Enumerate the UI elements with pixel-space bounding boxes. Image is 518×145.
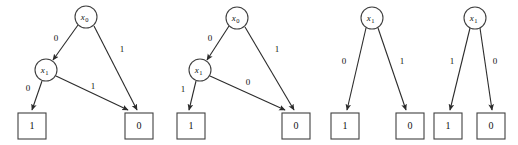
edge-label: 1 — [400, 56, 405, 66]
bdd-node-subscript: 1 — [371, 17, 374, 24]
bdd-node-subscript: 1 — [199, 69, 202, 76]
edge-label: 1 — [120, 44, 125, 54]
bdd-terminal-value: 0 — [137, 120, 142, 131]
bdd-figure: 010110x0x1011010x0x10110x11010x1 — [0, 0, 518, 145]
bdd-terminal-value: 1 — [189, 120, 194, 131]
bdd-edge — [378, 28, 406, 110]
bdd-edge — [189, 81, 196, 110]
bdd-edge — [32, 81, 42, 110]
bdd-edge — [245, 27, 294, 110]
edge-label: 1 — [275, 44, 280, 54]
edge-label: 1 — [450, 56, 455, 66]
bdd-diagram: 1010x1 — [434, 7, 505, 139]
bdd-diagram: 011010x0x1 — [177, 7, 310, 139]
bdd-edge — [480, 28, 492, 110]
edge-label: 0 — [493, 56, 498, 66]
bdd-terminal-value: 1 — [30, 120, 35, 131]
bdd-diagram: 0110x1 — [331, 7, 424, 139]
bdd-terminal-value: 1 — [343, 120, 348, 131]
edge-label: 0 — [26, 83, 31, 93]
bdd-node-subscript: 0 — [85, 16, 88, 23]
bdd-node-subscript: 1 — [474, 17, 477, 24]
edge-label: 0 — [54, 33, 59, 43]
bdd-node-subscript: 0 — [236, 17, 239, 24]
edge-label: 1 — [181, 84, 186, 94]
bdd-terminal-value: 1 — [446, 120, 451, 131]
bdd-diagram: 010110x0x1 — [18, 6, 153, 139]
edge-label: 1 — [91, 81, 96, 91]
bdd-node-subscript: 1 — [45, 69, 48, 76]
edge-label: 0 — [342, 56, 347, 66]
bdd-terminal-value: 0 — [489, 120, 494, 131]
bdd-canvas: 010110x0x1011010x0x10110x11010x1 — [0, 0, 518, 145]
edge-label: 0 — [208, 33, 213, 43]
bdd-terminal-value: 0 — [408, 120, 413, 131]
edge-label: 0 — [246, 77, 251, 87]
bdd-terminal-value: 0 — [294, 120, 299, 131]
bdd-edge — [347, 28, 366, 110]
bdd-edge — [450, 28, 470, 110]
bdd-render-group: 010110x0x1011010x0x10110x11010x1 — [18, 6, 505, 139]
